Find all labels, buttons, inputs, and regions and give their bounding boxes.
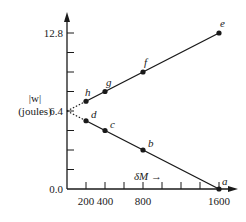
point-label-c: c — [110, 118, 115, 130]
x-tick-label: 1600 — [208, 195, 231, 207]
x-axis-label: δM → — [134, 170, 162, 182]
x-tick-label: 400 — [97, 195, 114, 207]
data-point-a — [216, 186, 221, 191]
point-label-g: g — [106, 76, 112, 88]
x-axis-arrow-icon — [228, 186, 238, 192]
data-point-h — [83, 99, 88, 104]
point-label-a: a — [222, 175, 228, 187]
y-tick-label: 12.8 — [44, 27, 64, 39]
chart: 0.06.412.82004008001600|w|(joules)δM →hg… — [0, 0, 246, 222]
data-lines — [67, 33, 219, 189]
data-point-d — [83, 118, 88, 123]
y-axis-label-units: (joules) — [18, 105, 52, 118]
ticks — [67, 33, 219, 189]
point-label-e: e — [220, 17, 225, 29]
data-points — [83, 30, 221, 191]
x-tick-label: 200 — [78, 195, 95, 207]
data-point-c — [102, 128, 107, 133]
extrapolation-line — [67, 111, 86, 121]
x-tick-label: 800 — [135, 195, 152, 207]
axes — [64, 12, 238, 192]
y-tick-label: 0.0 — [49, 183, 63, 195]
point-label-f: f — [144, 56, 149, 68]
data-point-b — [140, 147, 145, 152]
point-label-h: h — [85, 86, 91, 98]
data-point-f — [140, 69, 145, 74]
data-point-e — [216, 30, 221, 35]
y-axis-arrow-icon — [64, 12, 70, 22]
y-axis-label: |w| — [29, 92, 41, 104]
data-point-g — [102, 89, 107, 94]
extrapolation-line — [67, 101, 86, 111]
point-label-b: b — [148, 137, 154, 149]
point-label-d: d — [91, 108, 97, 120]
